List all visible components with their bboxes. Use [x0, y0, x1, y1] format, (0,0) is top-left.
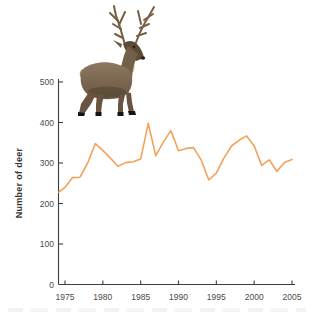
y-tick-label: 200 — [40, 199, 54, 209]
x-tick-labels: 1975198019851990199520002005 — [56, 292, 302, 302]
x-tick-label: 1995 — [207, 292, 226, 302]
cropped-caption-text — [8, 308, 306, 312]
y-axis-title: Number of deer — [14, 147, 24, 218]
x-tick-label: 1990 — [169, 292, 188, 302]
y-tick-label: 500 — [40, 77, 54, 87]
y-tick-label: 100 — [40, 239, 54, 249]
y-tick-label: 0 — [49, 280, 54, 290]
y-ticks — [59, 82, 64, 244]
x-tick-label: 1985 — [131, 292, 150, 302]
x-tick-label: 2005 — [283, 292, 302, 302]
y-tick-label: 400 — [40, 118, 54, 128]
x-tick-label: 1980 — [93, 292, 112, 302]
x-tick-label: 1975 — [56, 292, 75, 302]
population-line — [59, 123, 292, 192]
deer-population-chart: Number of deer 0100200300400500 19751980… — [0, 0, 314, 316]
x-tick-label: 2000 — [245, 292, 264, 302]
y-tick-labels: 0100200300400500 — [40, 77, 54, 290]
deer-population-figure: Number of deer 0100200300400500 19751980… — [0, 0, 314, 316]
y-tick-label: 300 — [40, 158, 54, 168]
x-ticks — [65, 281, 292, 285]
